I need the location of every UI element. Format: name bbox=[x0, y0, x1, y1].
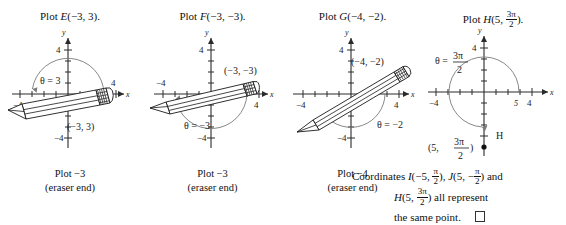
plot-g-y-tick-label-4: 4 bbox=[339, 45, 344, 55]
plot-h-point-post: ) bbox=[470, 142, 473, 154]
note-h-frac-num: 3π bbox=[417, 187, 428, 197]
plot-g-title: Plot G(−4, −2). bbox=[285, 10, 420, 23]
plot-panel-e: Plot E(−3, 3). bbox=[0, 0, 140, 225]
plot-h-theta-frac-den: 2 bbox=[457, 64, 462, 75]
plot-h-point-marker bbox=[481, 144, 486, 149]
plot-h-point-frac-num: 3π bbox=[454, 136, 464, 147]
plot-h-theta-eq: θ = bbox=[435, 55, 448, 66]
plot-h-x-axis-name: x bbox=[549, 88, 554, 97]
note-j-args-post: ) and bbox=[481, 170, 503, 182]
note-i-args-post: ), bbox=[439, 170, 448, 182]
plot-g-axes-area: x y −4 4 4 −4 θ = −2 bbox=[285, 26, 420, 156]
plot-g-y-axis-name: y bbox=[344, 28, 349, 37]
coordinates-note: Coordinates I(−5, π2), J(5, −π2) and H(5… bbox=[352, 166, 566, 225]
plot-e-title-prefix: Plot bbox=[40, 10, 60, 22]
plot-h-title-prefix: Plot bbox=[463, 13, 483, 25]
plot-h-point-pre: (5, bbox=[428, 142, 439, 154]
note-line-1: Coordinates I(−5, π2), J(5, −π2) and bbox=[352, 166, 566, 187]
plot-g-title-prefix: Plot bbox=[319, 10, 339, 22]
note-line1-prefix: Coordinates bbox=[352, 170, 408, 182]
plot-e-caption-line2: (eraser end) bbox=[0, 182, 140, 194]
note-point-h: H bbox=[394, 191, 402, 203]
plot-h-title-args-pre: (5, bbox=[491, 13, 506, 25]
plot-h-y-axis-name: y bbox=[477, 26, 482, 35]
note-h-frac-den: 2 bbox=[417, 198, 428, 207]
plot-g-point-label: (−4, −2) bbox=[351, 56, 384, 68]
plot-f-x-axis-name: x bbox=[269, 90, 274, 99]
plot-e-y-tick-label-neg4: −4 bbox=[54, 133, 64, 143]
plot-e-title: Plot E(−3, 3). bbox=[0, 10, 140, 23]
plot-f-title-args: (−3, −3). bbox=[207, 10, 246, 22]
plot-f-caption-line2: (eraser end) bbox=[140, 182, 285, 194]
plot-h-x-tick-label-5: 5 bbox=[514, 99, 518, 108]
plot-f-x-tick-label-neg4: −4 bbox=[156, 78, 166, 88]
plot-g-title-args: (−4, −2). bbox=[347, 10, 386, 22]
plot-e-caption-line1: Plot −3 bbox=[0, 168, 140, 180]
plot-e-x-tick-label-4: 4 bbox=[111, 78, 116, 88]
plot-f-title: Plot F(−3, −3). bbox=[140, 10, 285, 23]
plot-f-title-letter: F bbox=[200, 10, 207, 22]
plot-g-x-axis-name: x bbox=[410, 90, 415, 99]
plot-h-y-tick-label-4: 4 bbox=[472, 43, 477, 53]
plot-f-y-axis-name: y bbox=[204, 28, 209, 37]
plot-e-title-args: (−3, 3). bbox=[67, 10, 100, 22]
plot-f-point-label: (−3, −3) bbox=[224, 65, 257, 77]
plot-g-y-tick-label-neg4: −4 bbox=[337, 133, 347, 143]
plot-f-caption-line1: Plot −3 bbox=[140, 168, 285, 180]
plot-f-theta-label: θ = −3 bbox=[184, 120, 210, 131]
note-h-args-post: ) all represent bbox=[428, 191, 488, 203]
note-h-args-pre: (5, bbox=[402, 191, 417, 203]
plot-h-x-tick-label-4: 4 bbox=[527, 98, 532, 108]
plot-g-x-tick-label-4: 4 bbox=[394, 100, 399, 110]
plot-g-axis-lines bbox=[293, 38, 409, 148]
plot-e-theta-label: θ = 3 bbox=[40, 75, 60, 86]
plot-f-x-tick-label-4: 4 bbox=[254, 100, 259, 110]
plot-h-theta-frac-num: 3π bbox=[453, 50, 463, 61]
plot-e-pencil bbox=[8, 88, 113, 119]
plot-h-title-args-post: ). bbox=[517, 13, 523, 25]
end-of-proof-box bbox=[475, 211, 485, 222]
plot-e-x-axis-name: x bbox=[125, 90, 130, 99]
plot-e-y-axis-name: y bbox=[61, 28, 66, 37]
plot-f-y-tick-label-4: 4 bbox=[199, 45, 204, 55]
plot-e-point-label: (−3, 3) bbox=[67, 121, 94, 133]
plot-e-y-tick-label-4: 4 bbox=[56, 45, 61, 55]
note-i-args-pre: (−5, bbox=[412, 170, 433, 182]
plot-h-x-tick-label-neg4: −4 bbox=[429, 98, 439, 108]
plot-g-x-tick-label-neg4: −4 bbox=[296, 100, 306, 110]
plot-h-point-letter: H bbox=[496, 130, 503, 141]
plot-h-title-letter: H bbox=[483, 13, 491, 25]
plot-h-point-label: (5, 3π 2 ) bbox=[428, 136, 473, 161]
plot-f-axes-area: x y −4 4 4 −4 θ = −3 bbox=[140, 26, 285, 156]
plot-panel-f: Plot F(−3, −3). x y bbox=[140, 0, 285, 225]
plot-h-axes-area: x y −4 4 5 4 θ = 3π 2 H (5, 3π bbox=[420, 26, 566, 156]
note-line-3: the same point. bbox=[352, 207, 566, 225]
plot-h-point-frac-den: 2 bbox=[458, 150, 463, 161]
plot-g-theta-label: θ = −2 bbox=[377, 119, 403, 130]
note-line-2: H(5, 3π2) all represent bbox=[352, 187, 566, 208]
note-line3-text: the same point. bbox=[394, 211, 461, 223]
plot-f-title-prefix: Plot bbox=[179, 10, 199, 22]
note-h-fraction: 3π2 bbox=[417, 187, 428, 207]
plot-f-y-tick-label-neg4: −4 bbox=[197, 133, 207, 143]
plot-e-axes-area: x y −4 4 4 −4 θ = 3 bbox=[0, 26, 140, 156]
note-j-args-pre: (5, − bbox=[453, 170, 474, 182]
plot-h-axis-lines bbox=[428, 36, 548, 156]
